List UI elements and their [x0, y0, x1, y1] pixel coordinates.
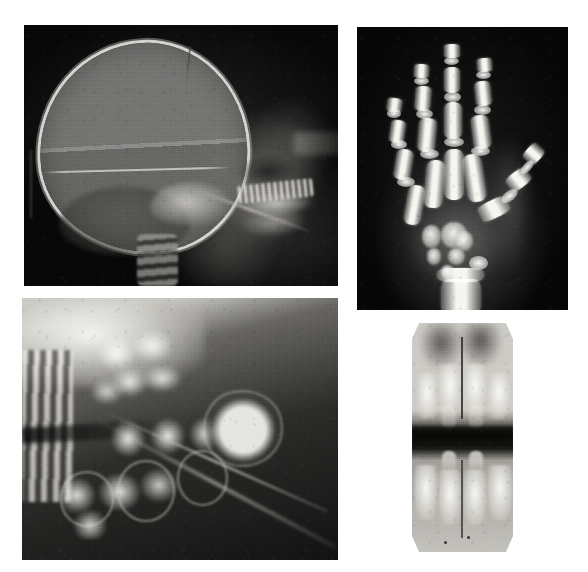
carpal-triquetral	[427, 248, 442, 265]
mandibular-lateral-incisor-right	[487, 465, 513, 520]
panoramic-dental-radiograph: Sectional panoramic dental radiograph of…	[22, 298, 338, 560]
proximal-phalanx-3	[417, 117, 438, 152]
skull-film-artifact	[30, 150, 32, 218]
maxillary-root-right	[469, 405, 483, 428]
metacarpal-4	[444, 149, 464, 200]
carpal-scaphoid	[456, 231, 473, 251]
mandibular-midline-shadow	[461, 460, 463, 538]
distal-epiphysis-3	[414, 77, 429, 85]
periapical-dental-film: Periapical / occlusal intraoral dental f…	[412, 323, 513, 552]
radius-shaft	[441, 279, 481, 310]
middle-phalanx-5	[474, 80, 492, 107]
proximal-epiphysis-3	[420, 149, 439, 159]
hand-wrist-radiograph: Posteroanterior radiograph of left hand …	[357, 27, 568, 310]
maxillary-midline-shadow	[461, 337, 463, 419]
middle-epiphysis-4	[444, 92, 462, 102]
proximal-phalanx-4	[444, 102, 463, 139]
middle-epiphysis-5	[474, 105, 491, 115]
metacarpal-3	[422, 159, 445, 209]
tooth-follicle-outline-2	[117, 460, 175, 522]
maxillary-lateral-incisor-left	[416, 373, 438, 419]
mandibular-central-incisor-right	[463, 470, 487, 525]
film-emulsion-dot-1	[444, 541, 447, 544]
mandibular-lateral-incisor-left	[414, 465, 438, 520]
film-emulsion-dot-2	[467, 536, 470, 539]
middle-phalanx-4	[444, 67, 461, 94]
cervical-spine	[137, 234, 178, 286]
radiograph-figure: Lateral cephalometric skull radiograph s…	[0, 0, 588, 572]
crowded-tooth-cluster	[79, 329, 205, 423]
occlusal-dark-band	[412, 426, 513, 447]
mandibular-central-incisor-left	[438, 470, 462, 525]
middle-epiphysis-2	[391, 140, 407, 148]
maxillary-root-left	[442, 405, 456, 428]
distal-epiphysis-2	[387, 109, 402, 117]
lateral-skull-radiograph: Lateral cephalometric skull radiograph s…	[24, 25, 338, 286]
maxillary-lateral-incisor-right	[487, 373, 511, 419]
proximal-epiphysis-4	[444, 137, 464, 147]
